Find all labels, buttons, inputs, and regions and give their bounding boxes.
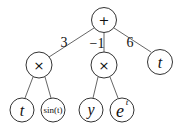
weight-label-3: 6: [127, 35, 134, 50]
edge-mul1-t: [25, 77, 33, 98]
node-y: y: [79, 98, 103, 122]
variable-t-label: t: [20, 102, 25, 119]
edge-mul1-sin: [45, 77, 51, 98]
edge-root-mul1: [49, 28, 94, 57]
sin-label: sin(t): [44, 105, 63, 115]
times-label: ×: [34, 58, 45, 73]
times-label: ×: [99, 58, 110, 73]
edge-mul2-exp: [110, 77, 118, 98]
variable-y-label: y: [85, 101, 95, 119]
variable-t-label: t: [158, 54, 163, 71]
plus-label: +: [99, 13, 110, 28]
node-root: +: [92, 8, 117, 33]
weight-label-1: 3: [61, 35, 68, 50]
weight-label-2: −1: [90, 36, 105, 51]
exp-base-label: e: [116, 101, 124, 121]
node-mul2: ×: [91, 52, 117, 78]
node-sin: sin(t): [41, 98, 65, 122]
node-mul1: ×: [26, 52, 52, 78]
node-t-top: t: [148, 50, 173, 75]
node-exp: e t: [110, 97, 134, 122]
expression-tree: 3 −1 6 + × × t t sin(t) y e t: [0, 0, 183, 132]
node-t-leaf: t: [10, 98, 34, 122]
edge-mul2-y: [93, 77, 98, 98]
